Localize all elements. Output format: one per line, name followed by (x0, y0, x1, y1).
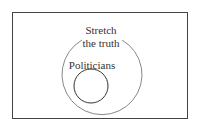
inner-label: Politicians (69, 59, 115, 71)
euler-diagram: Stretch the truth Politicians (0, 0, 200, 127)
outer-label-line-2: the truth (83, 37, 120, 49)
outer-label-line-1: Stretch (85, 24, 117, 36)
